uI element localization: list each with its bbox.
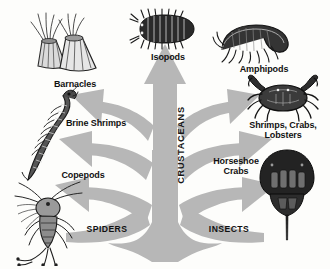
label-barnacles: Barnacles [44, 79, 106, 89]
label-isopods: Isopods [139, 52, 197, 62]
label-horseshoe-crabs: Horseshoe Crabs [204, 156, 268, 176]
branch-copepods [80, 187, 152, 223]
label-copepods: Copepods [52, 170, 114, 180]
branch-horseshoe-crabs [179, 187, 251, 223]
label-crustaceans: CRUSTACEANS [176, 101, 190, 189]
label-insects: INSECTS [200, 225, 258, 235]
label-spiders: SPIDERS [79, 225, 135, 235]
label-amphipods: Amphipods [228, 64, 300, 74]
crab-illustration [245, 74, 321, 122]
brine-shrimp-illustration [17, 86, 79, 182]
label-shrimps-crabs-lobsters: Shrimps, Crabs, Lobsters [240, 120, 326, 140]
isopod-illustration [126, 8, 204, 50]
amphipod-illustration [212, 20, 294, 64]
crustacean-tree-diagram: Isopods Amphipods Barnacles Brine Shrimp… [0, 0, 330, 269]
label-brine-shrimps: Brine Shrimps [57, 118, 135, 128]
branch-isopods [153, 78, 177, 155]
arrowhead-isopods [144, 44, 186, 84]
copepod-illustration [10, 176, 88, 266]
barnacle-illustration [26, 10, 108, 76]
